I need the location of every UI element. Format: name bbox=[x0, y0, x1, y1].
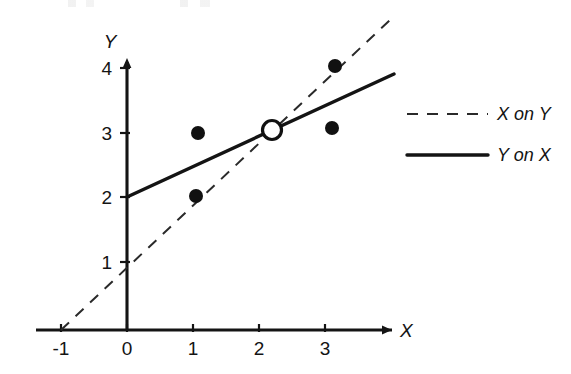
line-y-on-x bbox=[127, 74, 394, 197]
legend-entry-x-on-y: X on Y bbox=[407, 104, 553, 124]
x-tick-label-0: 0 bbox=[122, 338, 133, 359]
legend-entry-y-on-x: Y on X bbox=[407, 145, 552, 165]
x-axis-label: X bbox=[399, 320, 414, 341]
data-point-2 bbox=[189, 189, 203, 203]
x-tick-label-3: 3 bbox=[320, 338, 331, 359]
data-point-1 bbox=[191, 126, 205, 140]
legend-label-x-on-y: X on Y bbox=[496, 104, 553, 124]
y-tick-label-3: 3 bbox=[101, 123, 112, 144]
regression-scatter-plot: -1 0 1 2 3 1 2 3 4 X Y bbox=[0, 0, 571, 374]
y-tick-labels: 1 2 3 4 bbox=[101, 58, 112, 273]
x-tick-label--1: -1 bbox=[53, 338, 70, 359]
x-tick-labels: -1 0 1 2 3 bbox=[53, 338, 331, 359]
y-tick-label-4: 4 bbox=[101, 58, 112, 79]
data-point-4 bbox=[325, 121, 339, 135]
x-axis-arrowhead bbox=[382, 326, 392, 335]
y-axis-arrowhead bbox=[123, 58, 132, 68]
y-tick-label-2: 2 bbox=[101, 187, 112, 208]
figure-canvas: -1 0 1 2 3 1 2 3 4 X Y bbox=[0, 0, 571, 374]
x-tick-label-2: 2 bbox=[254, 338, 265, 359]
legend-label-y-on-x: Y on X bbox=[497, 145, 552, 165]
data-point-3 bbox=[328, 59, 342, 73]
x-tick-label-1: 1 bbox=[188, 338, 199, 359]
y-tick-label-1: 1 bbox=[101, 252, 112, 273]
y-axis-label: Y bbox=[104, 31, 118, 52]
legend: X on Y Y on X bbox=[407, 104, 553, 165]
centroid-marker bbox=[263, 121, 282, 140]
